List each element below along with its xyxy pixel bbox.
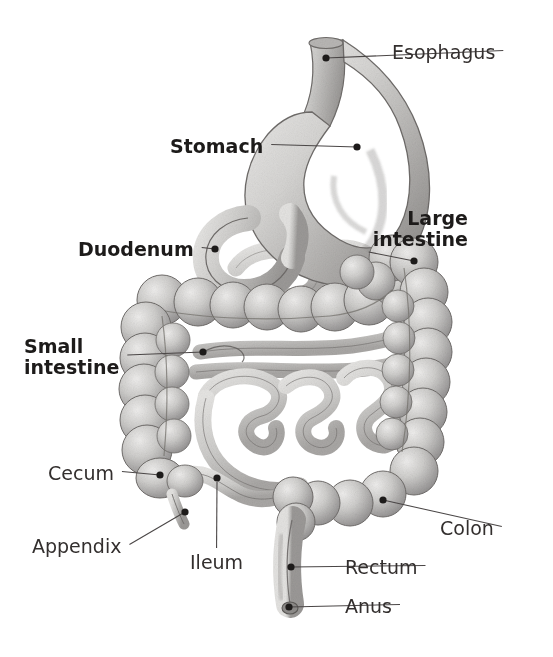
dot-appendix xyxy=(181,508,188,515)
dot-anus xyxy=(285,603,292,610)
leader-appendix xyxy=(129,512,185,545)
label-ileum: Ileum xyxy=(190,552,243,573)
label-cecum: Cecum xyxy=(48,463,114,484)
label-esophagus: Esophagus xyxy=(392,42,495,63)
anatomy-illustration xyxy=(0,0,553,657)
label-stomach: Stomach xyxy=(170,136,263,157)
ascending-colon xyxy=(119,302,191,475)
label-appendix: Appendix xyxy=(32,536,121,557)
label-large-intestine: Large intestine xyxy=(373,208,468,250)
label-duodenum: Duodenum xyxy=(78,239,194,260)
digestive-system-figure: EsophagusStomachDuodenumLarge intestineS… xyxy=(0,0,553,657)
label-anus: Anus xyxy=(345,596,392,617)
dot-small-intestine xyxy=(199,348,206,355)
cecum-pouch xyxy=(136,458,203,524)
dot-cecum xyxy=(156,471,163,478)
label-small-intestine: Small intestine xyxy=(24,336,119,378)
appendix-tip xyxy=(172,494,184,524)
dot-esophagus xyxy=(322,54,329,61)
dot-rectum xyxy=(287,563,294,570)
dot-stomach xyxy=(353,143,360,150)
label-rectum: Rectum xyxy=(345,557,417,578)
dot-colon xyxy=(379,496,386,503)
label-colon: Colon xyxy=(440,518,494,539)
dot-ileum xyxy=(213,474,220,481)
dot-duodenum xyxy=(211,245,218,252)
dot-large-intestine xyxy=(410,257,417,264)
